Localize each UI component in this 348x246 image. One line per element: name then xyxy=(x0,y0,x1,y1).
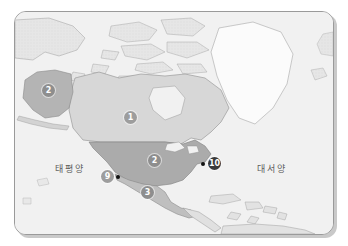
ocean-label-atlantic: 대서양 xyxy=(257,162,287,175)
city-dot-west-coast xyxy=(116,175,120,179)
land-canada xyxy=(69,72,229,144)
map-marker-2-alaska[interactable]: 2 xyxy=(42,84,55,97)
map-marker-10-east-coast-city[interactable]: 10 xyxy=(208,157,221,170)
map-marker-1-canada[interactable]: 1 xyxy=(124,111,137,124)
city-dot-east-coast xyxy=(201,162,205,166)
map-frame: 태평양 대서양 1 2 2 3 9 10 xyxy=(14,11,334,235)
north-america-map-figure: 태평양 대서양 1 2 2 3 9 10 xyxy=(0,0,348,246)
map-marker-3-mexico[interactable]: 3 xyxy=(141,186,154,199)
map-marker-9-west-coast-city[interactable]: 9 xyxy=(101,170,114,183)
map-marker-2-united-states[interactable]: 2 xyxy=(148,154,161,167)
map-graphic xyxy=(15,12,333,234)
ocean-label-pacific: 태평양 xyxy=(55,162,85,175)
